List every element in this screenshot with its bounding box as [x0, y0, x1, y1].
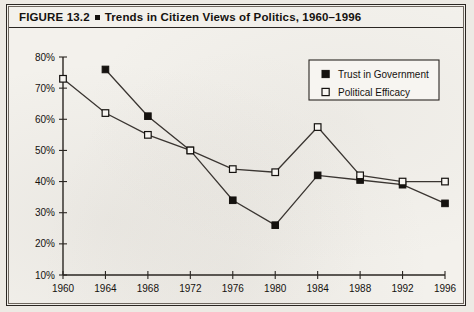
figure-title-text: Trends in Citizen Views of Politics, 196… [105, 11, 362, 23]
data-point-marker [272, 169, 279, 176]
data-point-marker [272, 222, 279, 229]
line-chart: 10%20%30%40%50%60%70%80% 196019641968197… [9, 29, 465, 305]
data-point-marker [145, 113, 152, 120]
data-point-marker [229, 166, 236, 173]
chart-legend: Trust in GovernmentPolitical Efficacy [309, 60, 439, 100]
x-tick-label: 1996 [434, 283, 457, 294]
figure-frame: FIGURE 13.2Trends in Citizen Views of Po… [6, 4, 466, 306]
data-point-marker [357, 172, 364, 179]
legend-label-1: Trust in Government [338, 69, 429, 80]
y-tick-label: 40% [35, 176, 55, 187]
x-tick-label: 1980 [264, 283, 287, 294]
y-tick-label: 70% [35, 83, 55, 94]
x-tick-label: 1988 [349, 283, 372, 294]
figure-title: FIGURE 13.2Trends in Citizen Views of Po… [9, 11, 361, 23]
y-tick-label: 50% [35, 145, 55, 156]
figure-label: FIGURE 13.2 [19, 11, 90, 23]
x-tick-label: 1976 [222, 283, 245, 294]
x-axis: 1960196419681972197619801984198819921996 [52, 271, 457, 294]
x-tick-label: 1964 [94, 283, 117, 294]
y-tick-label: 60% [35, 114, 55, 125]
data-point-marker [187, 147, 194, 154]
y-tick-label: 80% [35, 52, 55, 63]
y-tick-label: 30% [35, 207, 55, 218]
x-tick-label: 1968 [137, 283, 160, 294]
y-tick-label: 10% [35, 270, 55, 281]
data-point-marker [102, 66, 109, 73]
data-point-marker [442, 200, 449, 207]
x-tick-label: 1972 [179, 283, 202, 294]
y-axis-ticks: 10%20%30%40%50%60%70%80% [35, 52, 67, 281]
y-axis: 10%20%30%40%50%60%70%80% [35, 52, 67, 281]
chart-plot-area: 10%20%30%40%50%60%70%80% 196019641968197… [9, 29, 463, 303]
data-point-marker [314, 172, 321, 179]
data-point-marker [145, 132, 152, 139]
legend-marker-2 [322, 88, 329, 95]
data-point-marker [60, 76, 67, 83]
x-tick-label: 1992 [391, 283, 414, 294]
legend-marker-1 [322, 70, 329, 77]
y-tick-label: 20% [35, 238, 55, 249]
data-point-marker [314, 124, 321, 131]
data-point-marker [102, 110, 109, 117]
data-point-marker [399, 178, 406, 185]
x-tick-label: 1984 [307, 283, 330, 294]
figure-title-bar: FIGURE 13.2Trends in Citizen Views of Po… [9, 7, 463, 28]
data-point-marker [229, 197, 236, 204]
filled-square-bullet-icon [95, 15, 100, 20]
data-point-marker [442, 178, 449, 185]
legend-label-2: Political Efficacy [338, 87, 410, 98]
x-tick-label: 1960 [52, 283, 75, 294]
